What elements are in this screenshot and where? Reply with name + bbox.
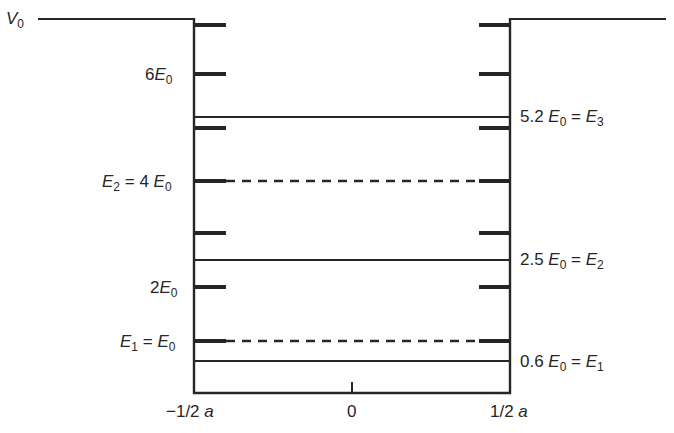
v0-label: V0 (6, 10, 24, 30)
length-a: a (204, 402, 213, 421)
symbol2: E (154, 172, 165, 191)
label-e2-infinite: E2 = 4 E0 (102, 173, 172, 193)
equals: = (138, 332, 157, 351)
value: 2.5 (520, 250, 548, 269)
subscript: 0 (166, 73, 173, 87)
x-label-left: −1/2 a (166, 403, 214, 420)
subscript2: 0 (169, 340, 176, 354)
label-e1-finite: 0.6 E0 = E1 (520, 353, 604, 373)
symbol2: E (586, 107, 597, 126)
x-center-text: 0 (347, 402, 356, 421)
value: 0.6 (520, 352, 548, 371)
symbol: E (548, 250, 559, 269)
equals: = (566, 107, 585, 126)
right-ticks (479, 25, 509, 341)
x-right-text: 1/2 (490, 402, 518, 421)
equals: = (566, 250, 585, 269)
x-label-right: 1/2 a (490, 403, 528, 420)
v-subscript: 0 (17, 17, 24, 31)
equals: = (566, 352, 585, 371)
symbol: E (120, 332, 131, 351)
subscript2: 2 (597, 258, 604, 272)
length-a: a (518, 402, 527, 421)
subscript2: 1 (597, 360, 604, 374)
label-e3-finite: 5.2 E0 = E3 (520, 108, 604, 128)
left-ticks (195, 25, 226, 341)
value: 5.2 (520, 107, 548, 126)
label-2e0: 2E0 (150, 279, 178, 299)
subscript2: 3 (597, 115, 604, 129)
x-left-text: −1/2 (166, 402, 204, 421)
equals: = 4 (120, 172, 154, 191)
subscript2: 0 (165, 180, 172, 194)
symbol2: E (586, 250, 597, 269)
label-6e0: 6E0 (145, 66, 173, 86)
label-e1-infinite: E1 = E0 (120, 333, 175, 353)
subscript: 0 (171, 286, 178, 300)
symbol: E (548, 352, 559, 371)
symbol2: E (586, 352, 597, 371)
v-symbol: V (6, 9, 17, 28)
symbol: E (159, 278, 170, 297)
x-label-center: 0 (347, 403, 356, 420)
symbol2: E (157, 332, 168, 351)
symbol: E (548, 107, 559, 126)
symbol: E (154, 65, 165, 84)
symbol: E (102, 172, 113, 191)
label-e2-finite: 2.5 E0 = E2 (520, 251, 604, 271)
